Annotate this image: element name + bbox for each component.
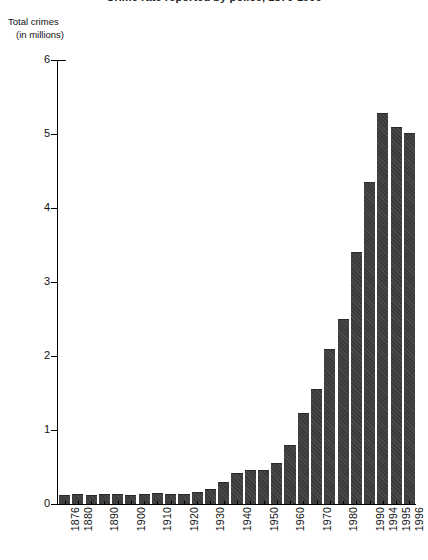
x-axis-tick xyxy=(264,501,265,505)
x-axis-tick xyxy=(104,501,105,505)
y-axis-tick xyxy=(51,430,58,431)
x-axis-tick-label: 1980 xyxy=(347,507,359,531)
x-axis-tick-label: 1880 xyxy=(82,507,94,531)
x-axis-tick-label: 1910 xyxy=(161,507,173,531)
bar[interactable] xyxy=(284,445,295,504)
x-axis-tick-label: 1960 xyxy=(294,507,306,531)
y-axis-tick-label: 5 xyxy=(28,127,50,139)
x-axis-tick xyxy=(277,501,278,505)
bar[interactable] xyxy=(324,349,335,504)
y-axis-tick xyxy=(51,282,58,283)
bar[interactable] xyxy=(245,470,256,504)
x-axis-tick xyxy=(184,501,185,505)
bar[interactable] xyxy=(231,473,242,504)
x-axis-tick xyxy=(370,501,371,505)
x-axis-tick-label: 1920 xyxy=(188,507,200,531)
x-axis-tick xyxy=(290,501,291,505)
x-axis-tick-label: 1940 xyxy=(241,507,253,531)
y-axis-tick xyxy=(51,134,58,135)
bar[interactable] xyxy=(351,252,362,504)
bar[interactable] xyxy=(258,470,269,504)
y-axis-caption: Total crimes (in millions) xyxy=(8,16,64,41)
y-axis-tick-label: 0 xyxy=(28,497,50,509)
y-axis-tick-label: 4 xyxy=(28,201,50,213)
x-axis-tick xyxy=(157,501,158,505)
x-axis-tick xyxy=(343,501,344,505)
bar-series xyxy=(58,60,416,504)
bar[interactable] xyxy=(404,133,415,504)
x-axis-tick xyxy=(396,501,397,505)
x-axis-tick xyxy=(317,501,318,505)
y-axis-tick-label: 6 xyxy=(28,53,50,65)
y-axis-tick-label: 2 xyxy=(28,349,50,361)
y-axis-tick xyxy=(51,60,58,61)
x-axis-tick xyxy=(65,501,66,505)
x-axis-tick xyxy=(118,501,119,505)
x-axis-labels: 1876188018901900191019201930194019501960… xyxy=(58,505,416,560)
bar[interactable] xyxy=(391,127,402,504)
x-axis-tick xyxy=(356,501,357,505)
plot-area: 0123456 xyxy=(58,60,416,504)
y-axis-tick xyxy=(51,356,58,357)
bar[interactable] xyxy=(377,113,388,504)
bar[interactable] xyxy=(338,319,349,504)
x-axis-tick xyxy=(131,501,132,505)
y-axis-caption-line1: Total crimes xyxy=(8,16,59,27)
x-axis-tick xyxy=(303,501,304,505)
y-axis-tick xyxy=(51,504,58,505)
x-axis-tick xyxy=(78,501,79,505)
x-axis-tick-label: 1994 xyxy=(387,507,399,531)
x-axis-tick-label: 1970 xyxy=(321,507,333,531)
x-axis-tick xyxy=(237,501,238,505)
x-axis-tick xyxy=(250,501,251,505)
y-axis-tick xyxy=(51,208,58,209)
x-axis-tick-label: 1950 xyxy=(268,507,280,531)
x-axis-tick-label: 1890 xyxy=(108,507,120,531)
x-axis-tick-label: 1930 xyxy=(214,507,226,531)
x-axis-tick xyxy=(409,501,410,505)
x-axis-tick-label: 1876 xyxy=(69,507,81,531)
x-axis-tick xyxy=(171,501,172,505)
x-axis-tick-label: 1996 xyxy=(413,507,425,531)
x-axis-tick xyxy=(224,501,225,505)
bar[interactable] xyxy=(271,463,282,504)
bar[interactable] xyxy=(311,389,322,504)
y-axis-caption-line2: (in millions) xyxy=(8,29,64,42)
x-axis-tick xyxy=(330,501,331,505)
x-axis-tick xyxy=(144,501,145,505)
x-axis-tick-label: 1990 xyxy=(374,507,386,531)
x-axis-tick xyxy=(383,501,384,505)
x-axis-tick-label: 1995 xyxy=(400,507,412,531)
bar[interactable] xyxy=(298,413,309,504)
y-axis-tick-label: 1 xyxy=(28,423,50,435)
x-axis-tick xyxy=(210,501,211,505)
x-axis-tick-label: 1900 xyxy=(135,507,147,531)
x-axis-tick xyxy=(91,501,92,505)
bar[interactable] xyxy=(364,182,375,504)
y-axis-tick-label: 3 xyxy=(28,275,50,287)
x-axis-tick xyxy=(197,501,198,505)
chart-title: Crime rate reported by police, 1876-1996 xyxy=(0,0,428,3)
